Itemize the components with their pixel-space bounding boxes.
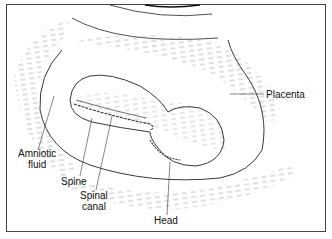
fetal-body-hatch — [70, 93, 230, 151]
label-amniotic-fluid-line2: fluid — [18, 159, 56, 170]
label-amniotic-fluid: Amniotic fluid — [18, 148, 56, 170]
label-spinal-canal-line2: canal — [80, 201, 108, 212]
label-head: Head — [154, 215, 178, 226]
label-amniotic-fluid-line1: Amniotic — [18, 148, 56, 159]
leader-spine — [80, 118, 92, 176]
label-spine: Spine — [61, 176, 87, 187]
fetus-ultrasound-illustration — [0, 0, 332, 239]
leader-spinal-canal — [96, 116, 112, 190]
label-spinal-canal: Spinal canal — [80, 190, 108, 212]
uterine-wall-arc-thick — [145, 5, 200, 7]
label-spinal-canal-line1: Spinal — [80, 190, 108, 201]
label-placenta: Placenta — [266, 89, 305, 100]
